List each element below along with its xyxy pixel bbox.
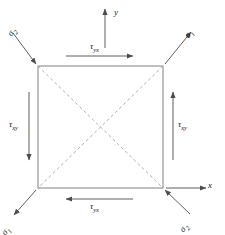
shear-label-top-subscript: yx: [93, 46, 99, 53]
stress-element-figure: y x τyx τyx τxy τxy σ2 σ1 σ1 σ2: [0, 0, 225, 235]
shear-label-left: τxy: [9, 120, 18, 131]
shear-label-top: τyx: [90, 42, 99, 53]
principal-stress-arrow-top-left: [13, 33, 36, 64]
y-axis-label: y: [114, 8, 118, 17]
x-axis-label: x: [208, 181, 212, 190]
shear-label-left-subscript: xy: [12, 124, 18, 131]
shear-label-right: τxy: [178, 120, 187, 131]
shear-label-bottom-subscript: yx: [93, 206, 99, 213]
shear-label-right-subscript: xy: [181, 124, 187, 131]
shear-label-bottom: τyx: [90, 202, 99, 213]
y-axis-label-text: y: [114, 7, 118, 17]
principal-stress-arrow-bottom-left: [14, 190, 36, 215]
principal-stress-arrow-bottom-right: [165, 190, 190, 214]
x-axis-label-text: x: [208, 180, 212, 190]
